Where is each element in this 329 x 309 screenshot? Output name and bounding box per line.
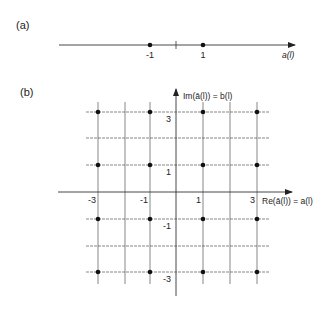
a-point-label: -1 xyxy=(146,50,154,60)
imaginary-axis-label: Im(ā(l)) = b(l) xyxy=(183,91,233,101)
y-tick-label: 3 xyxy=(166,114,171,124)
real-axis-label: Re(ā(l)) = a(l) xyxy=(262,196,313,206)
diagram-canvas: (a) -1 1 a(l) (b) xyxy=(0,0,329,309)
point xyxy=(255,217,260,222)
point xyxy=(255,110,260,115)
point xyxy=(148,270,153,275)
point xyxy=(201,110,206,115)
point xyxy=(201,163,206,168)
point xyxy=(201,217,206,222)
a-axis-label: a(l) xyxy=(282,50,294,60)
point xyxy=(255,270,260,275)
y-tick-label: 1 xyxy=(166,167,171,177)
a-point-plus-1 xyxy=(201,43,206,48)
panel-b: (b) xyxy=(20,86,313,296)
a-point-label: 1 xyxy=(200,50,205,60)
point xyxy=(96,270,101,275)
y-tick-label: -1 xyxy=(163,221,171,231)
point xyxy=(96,110,101,115)
point xyxy=(96,163,101,168)
x-tick-label: 1 xyxy=(196,195,201,205)
point xyxy=(96,217,101,222)
x-tick-label: 3 xyxy=(250,195,255,205)
point xyxy=(148,110,153,115)
point xyxy=(148,163,153,168)
panel-a-label: (a) xyxy=(16,19,29,31)
a-point-minus-1 xyxy=(148,43,153,48)
panel-b-label: (b) xyxy=(20,86,33,98)
point xyxy=(255,163,260,168)
x-tick-label: -1 xyxy=(140,195,148,205)
x-tick-label: -3 xyxy=(88,195,96,205)
grid-vertical xyxy=(98,102,257,284)
point xyxy=(201,270,206,275)
y-tick-label: -3 xyxy=(163,274,171,284)
point xyxy=(148,217,153,222)
panel-a: (a) -1 1 a(l) xyxy=(16,19,295,60)
